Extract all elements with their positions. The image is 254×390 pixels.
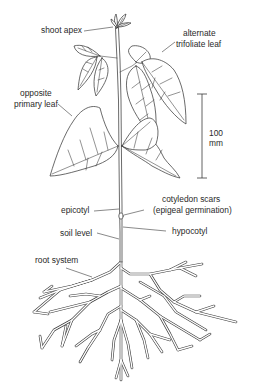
root-branch-fill bbox=[200, 334, 210, 340]
label-alternate-trifoliate-leaf-line1: alternate bbox=[183, 28, 216, 38]
scale-value: 100 bbox=[209, 128, 223, 138]
root-branch-fill bbox=[150, 274, 236, 322]
root-system bbox=[34, 262, 236, 380]
label-cotyledon-scars-line1: cotyledon scars bbox=[162, 194, 220, 204]
root-branch-fill bbox=[40, 336, 42, 348]
label-alternate-trifoliate-leaf-line2: trifoliate leaf bbox=[176, 39, 222, 49]
root-branch-fill bbox=[196, 306, 214, 312]
label-root-system: root system bbox=[35, 255, 78, 265]
root-branch-outline bbox=[150, 274, 236, 322]
root-branch-fill bbox=[178, 346, 192, 350]
scale-bar: 100 mm bbox=[197, 94, 223, 178]
root-branch-fill bbox=[180, 268, 196, 276]
cotyledon-scar bbox=[119, 213, 123, 219]
label-shoot-apex: shoot apex bbox=[41, 25, 83, 35]
root-branch-fill bbox=[34, 312, 48, 314]
label-soil-level: soil level bbox=[60, 228, 92, 238]
shoot-apex bbox=[111, 14, 131, 28]
label-hypocotyl: hypocotyl bbox=[172, 226, 208, 236]
label-epicotyl: epicotyl bbox=[61, 205, 90, 215]
label-cotyledon-scars-line2: (epigeal germination) bbox=[153, 205, 232, 215]
upper-left-leaflets bbox=[74, 45, 117, 96]
label-opposite-primary-leaf-line1: opposite bbox=[20, 88, 52, 98]
plant-diagram: 100 mm shoot apex alternate trifoliate l… bbox=[0, 0, 254, 390]
opposite-primary-leaf bbox=[50, 107, 180, 179]
label-opposite-primary-leaf-line2: primary leaf bbox=[14, 99, 58, 109]
scale-unit: mm bbox=[209, 138, 223, 148]
